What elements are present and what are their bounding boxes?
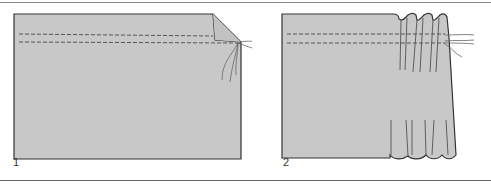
panel-2-label: 2 [283,157,289,168]
panel-2-fabric [282,14,456,159]
bottom-rule [0,180,491,181]
sewing-diagram [0,0,491,191]
panel-1-label: 1 [13,157,19,168]
